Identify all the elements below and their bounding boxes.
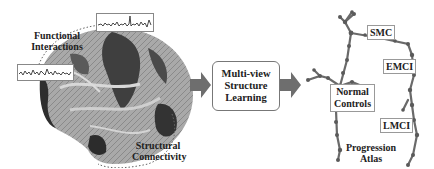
label-line: Atlas bbox=[341, 153, 401, 164]
waveform-icon bbox=[18, 65, 73, 80]
signal-trace-left bbox=[17, 64, 74, 81]
label-line: Progression bbox=[341, 142, 401, 153]
box-line: Structure bbox=[225, 80, 268, 92]
stage-label: Normal bbox=[334, 86, 371, 98]
stage-normal-controls: Normal Controls bbox=[330, 84, 375, 112]
signal-trace-top bbox=[96, 13, 154, 32]
box-line: Learning bbox=[225, 92, 266, 104]
box-line: Multi-view bbox=[222, 68, 271, 80]
multi-view-structure-learning-box: Multi-view Structure Learning bbox=[212, 61, 280, 111]
structural-connectivity-label: Structural Connectivity bbox=[132, 140, 184, 162]
arrow-right-icon bbox=[190, 72, 212, 98]
label-line: Structural bbox=[132, 140, 184, 151]
stage-label: LMCI bbox=[383, 120, 410, 131]
stage-lmci: LMCI bbox=[380, 118, 413, 133]
stage-label: Controls bbox=[334, 98, 371, 110]
label-line: Connectivity bbox=[132, 151, 184, 162]
label-line: Functional bbox=[31, 30, 83, 41]
functional-interactions-label: Functional Interactions bbox=[31, 30, 83, 52]
stage-smc: SMC bbox=[367, 25, 395, 40]
arrow-right-icon bbox=[280, 72, 302, 98]
stage-label: SMC bbox=[370, 27, 392, 38]
waveform-icon bbox=[97, 14, 153, 31]
stage-emci: EMCI bbox=[383, 59, 416, 74]
stage-label: EMCI bbox=[386, 61, 413, 72]
label-line: Interactions bbox=[31, 41, 83, 52]
progression-atlas-label: Progression Atlas bbox=[341, 142, 401, 164]
